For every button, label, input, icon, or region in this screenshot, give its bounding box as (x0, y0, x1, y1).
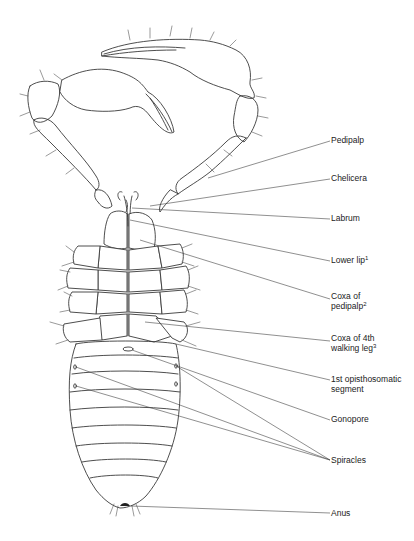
label-text: pedipalp (331, 301, 363, 311)
chelicera-drawing (60, 39, 254, 133)
label-text: Pedipalp (331, 135, 364, 145)
label-spiracles: Spiracles (331, 455, 366, 465)
label-text: walking leg (331, 343, 373, 353)
label-text: 1st opisthosomatic (331, 374, 401, 384)
pedipalp-drawing (28, 81, 258, 212)
footnote-marker: 1 (365, 255, 368, 261)
label-labrum: Labrum (331, 213, 360, 223)
footnote-marker: 2 (363, 301, 366, 307)
label-coxa-4th-leg: Coxa of 4th walking leg3 (331, 333, 376, 353)
label-anus: Anus (331, 508, 350, 518)
label-text: Chelicera (331, 173, 367, 183)
label-lower-lip: Lower lip1 (331, 255, 368, 265)
label-text: Labrum (331, 213, 360, 223)
label-gonopore: Gonopore (331, 414, 369, 424)
prosoma-drawing (63, 211, 189, 342)
label-text: Anus (331, 508, 350, 518)
label-text: Lower lip (331, 255, 365, 265)
label-text: segment (331, 384, 401, 394)
label-coxa-pedipalp: Coxa of pedipalp2 (331, 291, 366, 311)
label-pedipalp: Pedipalp (331, 135, 364, 145)
opisthosoma-drawing (69, 341, 180, 516)
footnote-marker: 3 (373, 343, 376, 349)
label-text: Spiracles (331, 455, 366, 465)
label-text: Coxa of (331, 291, 366, 301)
label-chelicera: Chelicera (331, 173, 367, 183)
label-opisthosomatic: 1st opisthosomatic segment (331, 374, 401, 394)
bristles (20, 26, 268, 174)
label-text: Gonopore (331, 414, 369, 424)
label-text: Coxa of 4th (331, 333, 376, 343)
